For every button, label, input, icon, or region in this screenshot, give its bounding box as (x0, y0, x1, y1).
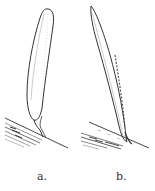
leaf-b-drawing (77, 0, 155, 191)
leaf-blade-b (91, 6, 127, 142)
panel-a: a. (0, 0, 78, 191)
leaf-blade-a (27, 9, 54, 120)
panel-label-a: a. (37, 171, 47, 182)
panel-b: b. (77, 0, 155, 191)
botanical-figure: a. b. (0, 0, 155, 191)
leaf-a-drawing (0, 0, 78, 191)
panel-label-b: b. (116, 171, 127, 182)
